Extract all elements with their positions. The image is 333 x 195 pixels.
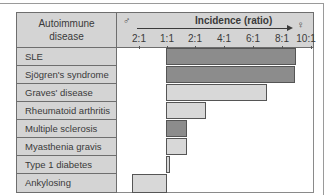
bar-graves [166, 84, 267, 101]
incidence-ratio-chart: Autoimmune disease ♂ Incidence (ratio) ♀… [16, 12, 314, 193]
row-label-sle: SLE [16, 48, 117, 66]
axis-arrow-line [137, 28, 287, 29]
row-label-ankylosing-spondylitis: Ankylosing spondylitis [16, 174, 117, 193]
frame-top-border [0, 3, 324, 4]
row-label-sjogrens: Sjögren's syndrome [16, 66, 117, 84]
tick-label: 2:1 [132, 33, 146, 44]
tick-label: 6:1 [246, 33, 260, 44]
header-label-line2: disease [38, 30, 94, 43]
row-label-myasthenia-gravis: Myasthenia gravis [16, 138, 117, 156]
row-label-type1-diabetes: Type 1 diabetes [16, 156, 117, 174]
female-symbol-icon: ♀ [297, 19, 305, 30]
plot-area [117, 48, 314, 193]
tick-label: 4:1 [217, 33, 231, 44]
bar-sjogrens [166, 66, 295, 83]
frame-right-border [323, 3, 324, 195]
row-label-rheumatoid-arthritis: Rheumatoid arthritis [16, 102, 117, 120]
header-axis: ♂ Incidence (ratio) ♀ 2:1 1:1 2:1 4:1 6:… [117, 12, 314, 48]
bar-sle [166, 48, 296, 65]
bar-ankylosing-spondylitis [132, 174, 167, 193]
bar-multiple-sclerosis [166, 120, 187, 137]
tick-label: 2:1 [188, 33, 202, 44]
arrow-right-icon [287, 25, 293, 31]
header-label-line1: Autoimmune [38, 17, 94, 30]
bar-rheumatoid-arthritis [166, 102, 206, 119]
tick-label: 8:1 [275, 33, 289, 44]
row-label-graves: Graves' disease [16, 84, 117, 102]
row-label-multiple-sclerosis: Multiple sclerosis [16, 120, 117, 138]
bar-myasthenia-gravis [166, 138, 187, 155]
axis-title: Incidence (ratio) [195, 15, 272, 26]
header-disease-column: Autoimmune disease [16, 12, 117, 48]
tick-label: 1:1 [160, 33, 174, 44]
tick-label: 10:1 [296, 33, 315, 44]
bar-type1-diabetes [166, 156, 170, 173]
male-symbol-icon: ♂ [123, 15, 131, 26]
